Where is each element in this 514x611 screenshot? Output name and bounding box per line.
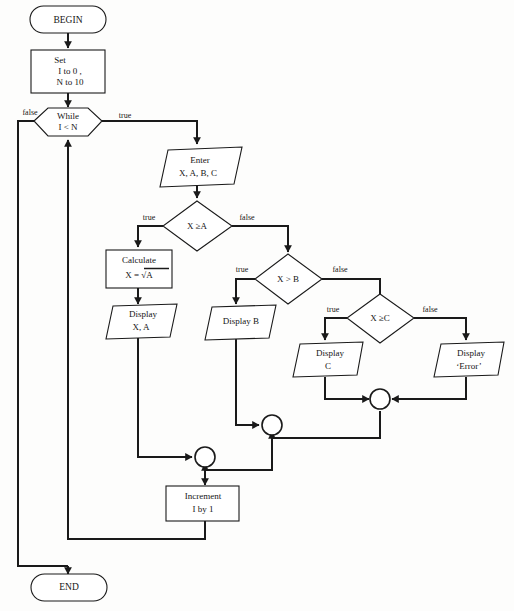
node-display-b: Display B (205, 305, 276, 340)
label-decc-true: true (327, 305, 340, 314)
label-while-true: true (119, 111, 132, 120)
enter-parallelogram-shape (160, 147, 242, 187)
set-label-line1: Set (54, 55, 66, 65)
while-label-line1: While (57, 111, 79, 121)
calculate-label-line2: X = √A (125, 270, 153, 280)
while-label-line2: I < N (58, 122, 78, 132)
node-enter: Enter X, A, B, C (160, 147, 242, 187)
edge-displayerror-to-merge3 (392, 377, 466, 399)
begin-label: BEGIN (53, 15, 82, 25)
edge-displayb-to-merge2 (236, 337, 259, 425)
display-xa-label-line1: Display (129, 309, 157, 319)
decision-a-label: X ≥A (187, 221, 208, 231)
label-decb-false: false (332, 265, 348, 274)
merge-connector-2 (262, 415, 282, 435)
edge-deca-false (232, 226, 288, 252)
flowchart-svg: BEGIN Set I to 0 , N to 10 While I < N f… (0, 0, 514, 611)
edge-decc-false (414, 318, 466, 340)
edge-displayxa-to-merge1 (138, 337, 192, 457)
node-increment: Increment I by 1 (166, 486, 239, 521)
edge-merge3-to-merge2-run (272, 411, 380, 438)
display-b-label: Display B (223, 316, 259, 326)
enter-label-line2: X, A, B, C (179, 168, 217, 178)
node-end: END (31, 574, 107, 601)
display-xa-label-line2: X, A (132, 322, 150, 332)
edge-increment-to-while (68, 140, 205, 539)
edge-while-false (18, 121, 68, 566)
label-while-false: false (22, 108, 38, 117)
set-label-line3: N to 10 (57, 77, 85, 87)
display-c-label-line2: C (325, 361, 331, 371)
increment-label-line2: I by 1 (193, 504, 214, 514)
node-begin: BEGIN (30, 6, 106, 33)
edge-decc-true (325, 318, 347, 340)
decision-b-label: X > B (277, 274, 299, 284)
flowchart-canvas: BEGIN Set I to 0 , N to 10 While I < N f… (0, 0, 514, 611)
edge-deca-true (138, 226, 163, 247)
increment-label-line1: Increment (185, 491, 222, 501)
label-decb-true: true (236, 265, 249, 274)
merge-connector-1 (195, 447, 215, 467)
set-label-line2: I to 0 , (58, 66, 82, 76)
node-display-xa: Display X, A (106, 304, 177, 339)
decision-c-label: X ≥C (370, 313, 390, 323)
edge-decb-true (236, 279, 255, 304)
edge-while-true (102, 121, 197, 144)
end-label: END (59, 582, 79, 592)
label-deca-false: false (239, 213, 255, 222)
display-c-label-line1: Display (316, 348, 344, 358)
enter-label-line1: Enter (190, 155, 210, 165)
calculate-label-line1: Calculate (122, 255, 156, 265)
display-error-label-line2: ‘Error’ (456, 361, 481, 371)
node-display-c: Display C (293, 342, 363, 377)
label-deca-true: true (143, 213, 156, 222)
node-calculate: Calculate X = √A (106, 250, 172, 288)
edge-displayc-to-merge3 (325, 377, 369, 399)
merge-connector-3 (370, 389, 390, 409)
display-error-label-line1: Display (457, 348, 485, 358)
node-set: Set I to 0 , N to 10 (31, 50, 105, 93)
label-decc-false: false (422, 305, 438, 314)
node-display-error: Display ‘Error’ (434, 342, 504, 377)
